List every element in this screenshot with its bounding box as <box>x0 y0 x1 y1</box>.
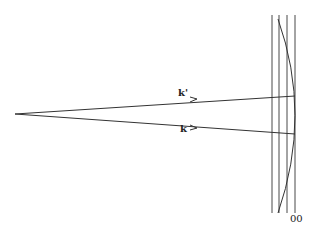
diagram-canvas: k' k 00 <box>0 0 318 238</box>
ray-diagram-svg <box>0 0 318 238</box>
label-k-prime: k' <box>178 87 188 98</box>
ray-k <box>15 114 295 134</box>
arrow-icon <box>190 125 197 130</box>
axis-label-00: 00 <box>290 213 303 224</box>
ewald-sphere-arc <box>278 19 295 213</box>
ray-k-prime <box>15 96 295 114</box>
label-k: k <box>180 123 187 134</box>
arrow-icon <box>190 97 197 102</box>
